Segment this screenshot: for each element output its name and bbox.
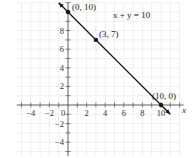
data-point — [94, 38, 98, 42]
y-tick-label: 6 — [60, 44, 64, 54]
y-tick-label: 2 — [60, 81, 64, 91]
point-label: (10, 0) — [152, 91, 176, 101]
x-tick-label: 0 — [61, 108, 65, 118]
x-tick-label: 2 — [84, 108, 88, 118]
point-label: (3, 7) — [99, 29, 119, 39]
x-tick-label: −4 — [26, 108, 36, 118]
x-tick-label: 8 — [140, 108, 144, 118]
y-tick-label: 8 — [60, 26, 64, 36]
x-tick-label: 4 — [103, 108, 108, 118]
x-tick-label: −2 — [45, 108, 54, 118]
data-point — [66, 10, 70, 14]
x-tick-label: 10 — [157, 108, 166, 118]
data-point — [159, 103, 163, 107]
x-tick-label: 6 — [122, 108, 126, 118]
equation-label: x + y = 10 — [113, 10, 151, 20]
point-label: (0, 10) — [72, 2, 96, 12]
coordinate-plane: −4−20246810−4−22468 (0, 10)(3, 7)(10, 0)… — [0, 0, 192, 158]
x-axis-label: x — [181, 105, 186, 115]
y-tick-label: −2 — [55, 119, 64, 129]
grid — [17, 3, 180, 156]
y-tick-label: −4 — [55, 137, 65, 147]
